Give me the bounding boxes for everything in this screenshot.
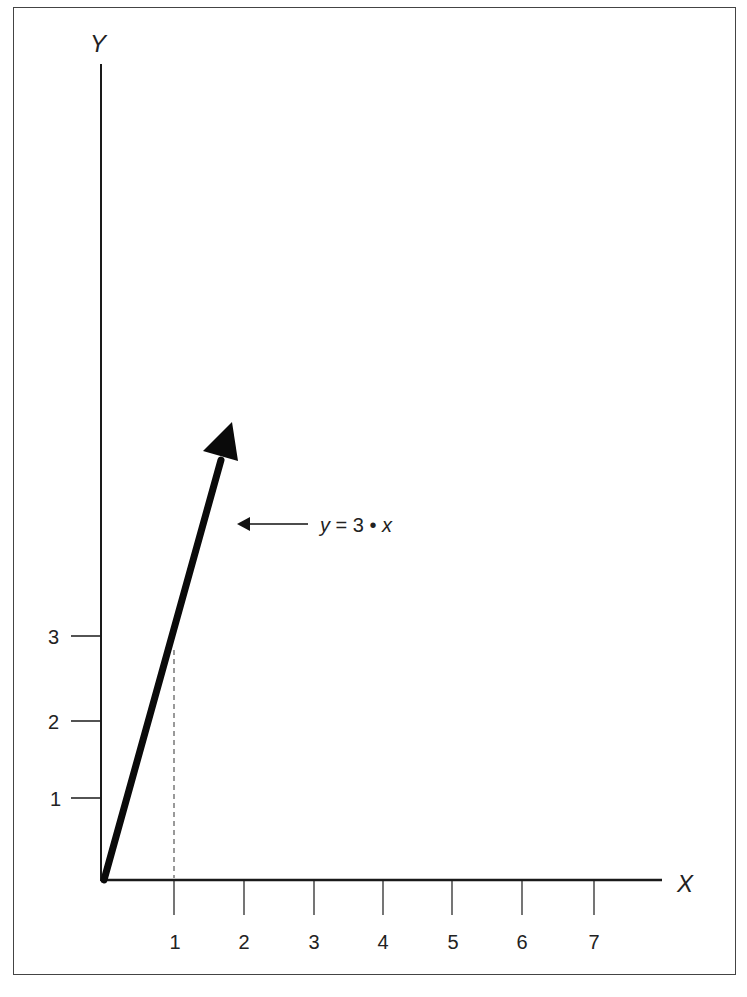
x-tick-labels: 1 2 3 4 5 6 7 (169, 931, 599, 953)
equation-x: x (381, 514, 393, 536)
annotation-pointer-arrowhead-icon (237, 517, 250, 531)
chart-canvas: Y X 3 2 1 1 2 3 4 5 6 7 y = 3 • x (0, 0, 747, 997)
x-tick-label-6: 6 (516, 931, 527, 953)
y-tick-label-2: 2 (48, 711, 59, 733)
x-tick-label-3: 3 (308, 931, 319, 953)
x-axis-label: X (676, 870, 694, 897)
x-tick-label-1: 1 (169, 931, 180, 953)
x-tick-label-7: 7 (588, 931, 599, 953)
x-ticks (174, 881, 594, 915)
y-axis-label: Y (90, 30, 108, 57)
x-tick-label-5: 5 (447, 931, 458, 953)
x-tick-label-4: 4 (377, 931, 388, 953)
vector-arrowhead-icon (203, 422, 238, 461)
y-ticks (71, 636, 101, 798)
y-tick-label-1: 1 (50, 788, 61, 810)
equation-label: y = 3 • x (318, 514, 393, 536)
vector-line (104, 460, 221, 880)
x-tick-label-2: 2 (238, 931, 249, 953)
equation-middle: = 3 • (330, 514, 382, 536)
y-tick-label-3: 3 (48, 626, 59, 648)
